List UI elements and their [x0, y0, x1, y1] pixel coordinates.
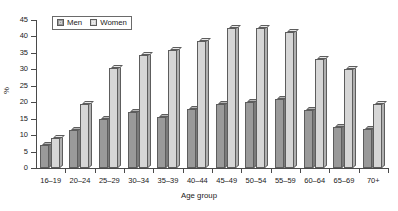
y-axis-tick: 0	[31, 168, 36, 169]
bar-top-face	[199, 38, 211, 41]
bar-face	[304, 110, 313, 168]
x-axis-tick	[153, 169, 154, 173]
bar-men	[187, 109, 196, 168]
bar-face	[157, 117, 166, 168]
y-axis-tick-label: 30	[20, 64, 28, 73]
bar-face	[227, 28, 236, 168]
bar-men	[69, 130, 78, 168]
bar-face	[285, 32, 294, 168]
x-axis-tick	[329, 169, 330, 173]
bar-men	[333, 127, 342, 168]
bar-side-face	[206, 38, 209, 168]
bar-top-face	[346, 66, 358, 69]
bar-group	[36, 20, 65, 168]
bar-top-face	[258, 25, 270, 28]
bar-face	[333, 127, 342, 168]
bar-men	[275, 99, 284, 168]
legend-item-men: Men	[57, 18, 82, 27]
bar-women	[344, 69, 353, 168]
bar-face	[80, 104, 89, 168]
bar-side-face	[148, 52, 151, 168]
bar-top-face	[375, 101, 387, 104]
bar-side-face	[60, 135, 63, 168]
bar-top-face	[170, 47, 182, 50]
x-axis-title: Age group	[0, 191, 398, 201]
bar-face	[275, 99, 284, 168]
bar-women	[139, 55, 148, 168]
bar-side-face	[265, 25, 268, 168]
bar-women	[197, 41, 206, 168]
bar-side-face	[177, 47, 180, 168]
x-axis-tick	[95, 169, 96, 173]
x-axis-tick	[241, 169, 242, 173]
bar-side-face	[89, 101, 92, 168]
y-axis-tick-label: 20	[20, 97, 28, 106]
bar-women	[256, 28, 265, 168]
bar-top-face	[287, 29, 299, 32]
bar-group	[65, 20, 94, 168]
bar-group	[153, 20, 182, 168]
bar-group	[300, 20, 329, 168]
x-axis-tick	[212, 169, 213, 173]
bar-face	[344, 69, 353, 168]
bar-women	[285, 32, 294, 168]
x-axis-tick	[359, 169, 360, 173]
legend-label-women: Women	[100, 18, 127, 27]
y-axis-tick-label: 5	[24, 147, 28, 156]
bar-face	[197, 41, 206, 168]
y-axis-title: %	[2, 87, 11, 94]
bar-face	[168, 50, 177, 168]
bar-face	[109, 68, 118, 168]
x-axis-tick	[300, 169, 301, 173]
bar-face	[187, 109, 196, 168]
bar-women	[227, 28, 236, 168]
y-axis-tick-label: 15	[20, 114, 28, 123]
bar-women	[315, 59, 324, 168]
x-axis-tick	[271, 169, 272, 173]
bar-side-face	[236, 25, 239, 168]
bar-women	[51, 138, 60, 168]
bar-top-face	[141, 52, 153, 55]
y-axis-tick-label: 10	[20, 130, 28, 139]
bar-women	[109, 68, 118, 168]
plot-area	[36, 20, 388, 168]
bar-men	[128, 112, 137, 168]
y-axis-tick-label: 45	[20, 15, 28, 24]
bar-top-face	[82, 101, 94, 104]
x-axis-tick	[65, 169, 66, 173]
legend-swatch-women-icon	[90, 19, 97, 26]
bar-women	[168, 50, 177, 168]
bar-side-face	[118, 65, 121, 168]
bar-group	[124, 20, 153, 168]
bar-side-face	[382, 101, 385, 168]
bar-group	[95, 20, 124, 168]
bar-men	[157, 117, 166, 168]
y-axis-tick-label: 25	[20, 81, 28, 90]
y-axis-tick-label: 0	[24, 163, 28, 172]
bar-group	[271, 20, 300, 168]
bar-face	[256, 28, 265, 168]
legend-label-men: Men	[67, 18, 82, 27]
bar-men	[40, 145, 49, 168]
bar-chart: % 051015202530354045 16–1920–2425–2930–3…	[0, 0, 398, 211]
bar-top-face	[111, 65, 123, 68]
bar-face	[99, 119, 108, 168]
bar-group	[359, 20, 388, 168]
legend-swatch-men-icon	[57, 19, 64, 26]
bar-men	[304, 110, 313, 168]
bar-side-face	[353, 66, 356, 168]
x-axis-tick-label: 70+	[356, 176, 391, 185]
legend-item-women: Women	[90, 18, 127, 27]
bar-face	[363, 129, 372, 168]
y-axis-tick-label: 40	[20, 31, 28, 40]
bar-face	[315, 59, 324, 168]
bar-group	[241, 20, 270, 168]
bar-face	[216, 104, 225, 168]
bar-group	[329, 20, 358, 168]
bar-women	[373, 104, 382, 168]
bar-men	[363, 129, 372, 168]
bar-men	[216, 104, 225, 168]
bar-women	[80, 104, 89, 168]
bar-face	[128, 112, 137, 168]
bar-face	[69, 130, 78, 168]
